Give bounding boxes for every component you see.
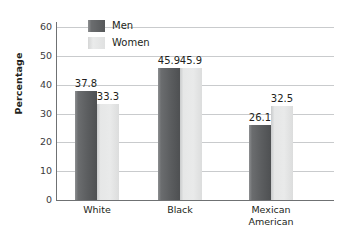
y-axis-tick-label: 30	[0, 108, 58, 119]
legend-label-men: Men	[112, 20, 133, 31]
bar-women-white	[97, 104, 119, 200]
bar-women-mexican-american	[271, 106, 293, 200]
legend-item-women: Women	[88, 35, 160, 50]
y-axis-tick-label: 50	[0, 50, 58, 61]
legend-item-men: Men	[88, 18, 160, 33]
y-axis-tick-label: 0	[0, 194, 58, 205]
legend-swatch-men-icon	[88, 20, 105, 32]
x-axis-line	[56, 200, 334, 201]
data-label: 33.3	[89, 91, 127, 102]
y-axis-line	[56, 22, 57, 200]
y-axis-tick-label: 60	[0, 21, 58, 32]
y-axis-tick-label: 40	[0, 79, 58, 90]
data-label: 37.8	[67, 78, 105, 89]
bar-men-black	[158, 68, 180, 200]
legend: Men Women	[88, 18, 160, 52]
data-label: 32.5	[263, 93, 301, 104]
bar-chart: Percentage 0102030405060 37.833.345.945.…	[0, 0, 340, 237]
y-axis-tick-label: 20	[0, 136, 58, 147]
x-axis-label-white: White	[57, 204, 137, 216]
bar-men-white	[75, 91, 97, 200]
legend-label-women: Women	[112, 37, 150, 48]
x-axis-label-black: Black	[140, 204, 220, 216]
data-label: 45.9	[172, 55, 210, 66]
y-axis-tick-label: 10	[0, 165, 58, 176]
bar-women-black	[180, 68, 202, 200]
x-axis-label-mexican-american: Mexican American	[231, 204, 311, 228]
bar-men-mexican-american	[249, 125, 271, 200]
legend-swatch-women-icon	[88, 37, 105, 49]
